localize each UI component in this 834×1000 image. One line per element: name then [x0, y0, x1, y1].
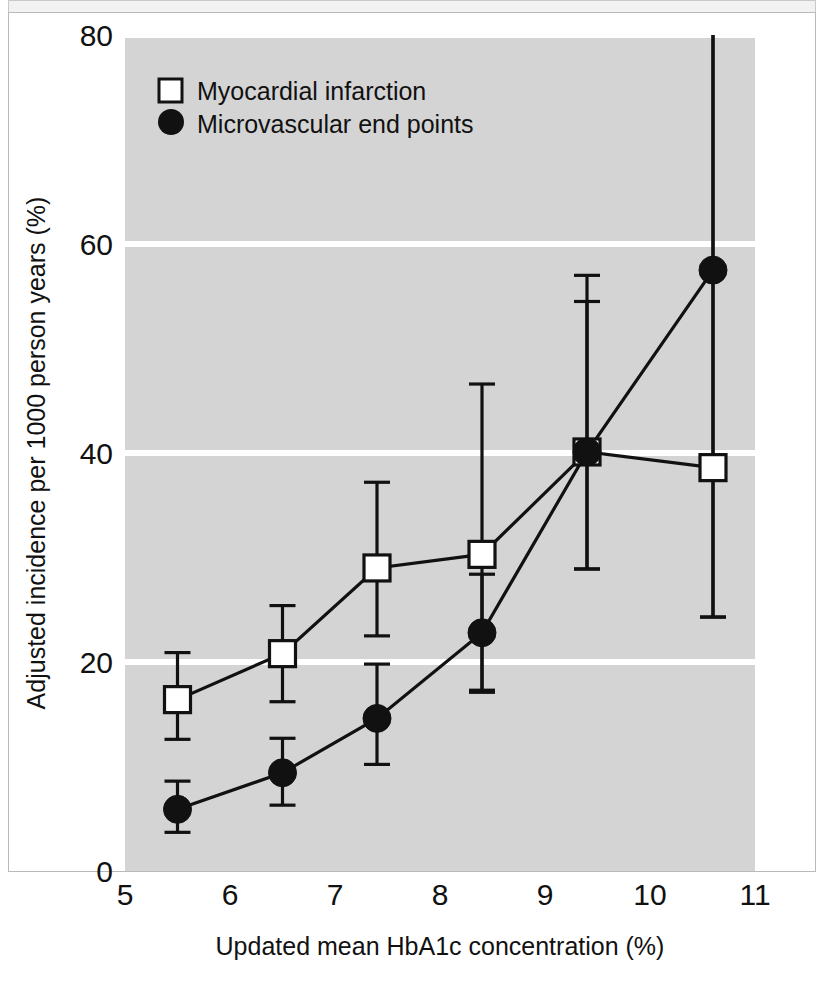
y-tick-20: 20 — [80, 646, 113, 679]
data-point-marker — [469, 541, 495, 567]
x-tick-9: 9 — [537, 878, 554, 911]
legend-marker-filled-circle — [158, 109, 184, 135]
data-point-marker — [573, 438, 601, 466]
legend-marker-open-square — [159, 79, 182, 102]
y-axis-tick-labels: 020406080 — [80, 19, 113, 888]
y-tick-60: 60 — [80, 228, 113, 261]
data-point-marker — [363, 704, 391, 732]
x-axis-title: Updated mean HbA1c concentration (%) — [216, 932, 665, 960]
x-tick-11: 11 — [739, 878, 770, 911]
y-axis-title: Adjusted incidence per 1000 person years… — [22, 197, 50, 710]
x-tick-8: 8 — [432, 878, 449, 911]
y-tick-80: 80 — [80, 19, 113, 52]
chart-canvas: 567891011 020406080 Updated mean HbA1c c… — [0, 0, 834, 1000]
figure-root: 567891011 020406080 Updated mean HbA1c c… — [0, 0, 834, 1000]
y-tick-0: 0 — [96, 855, 113, 888]
data-point-marker — [165, 687, 191, 713]
data-point-marker — [364, 555, 390, 581]
legend-label-microvascular-end-points: Microvascular end points — [197, 110, 474, 138]
x-tick-6: 6 — [222, 878, 239, 911]
data-point-marker — [270, 641, 296, 667]
data-point-marker — [700, 455, 726, 481]
x-axis-tick-labels: 567891011 — [117, 878, 771, 911]
data-point-marker — [269, 759, 297, 787]
x-tick-10: 10 — [633, 878, 666, 911]
data-point-marker — [468, 619, 496, 647]
data-point-marker — [164, 795, 192, 823]
x-tick-5: 5 — [117, 878, 134, 911]
data-point-marker — [699, 256, 727, 284]
y-tick-40: 40 — [80, 437, 113, 470]
legend-label-myocardial-infarction: Myocardial infarction — [197, 77, 426, 105]
x-tick-7: 7 — [327, 878, 344, 911]
